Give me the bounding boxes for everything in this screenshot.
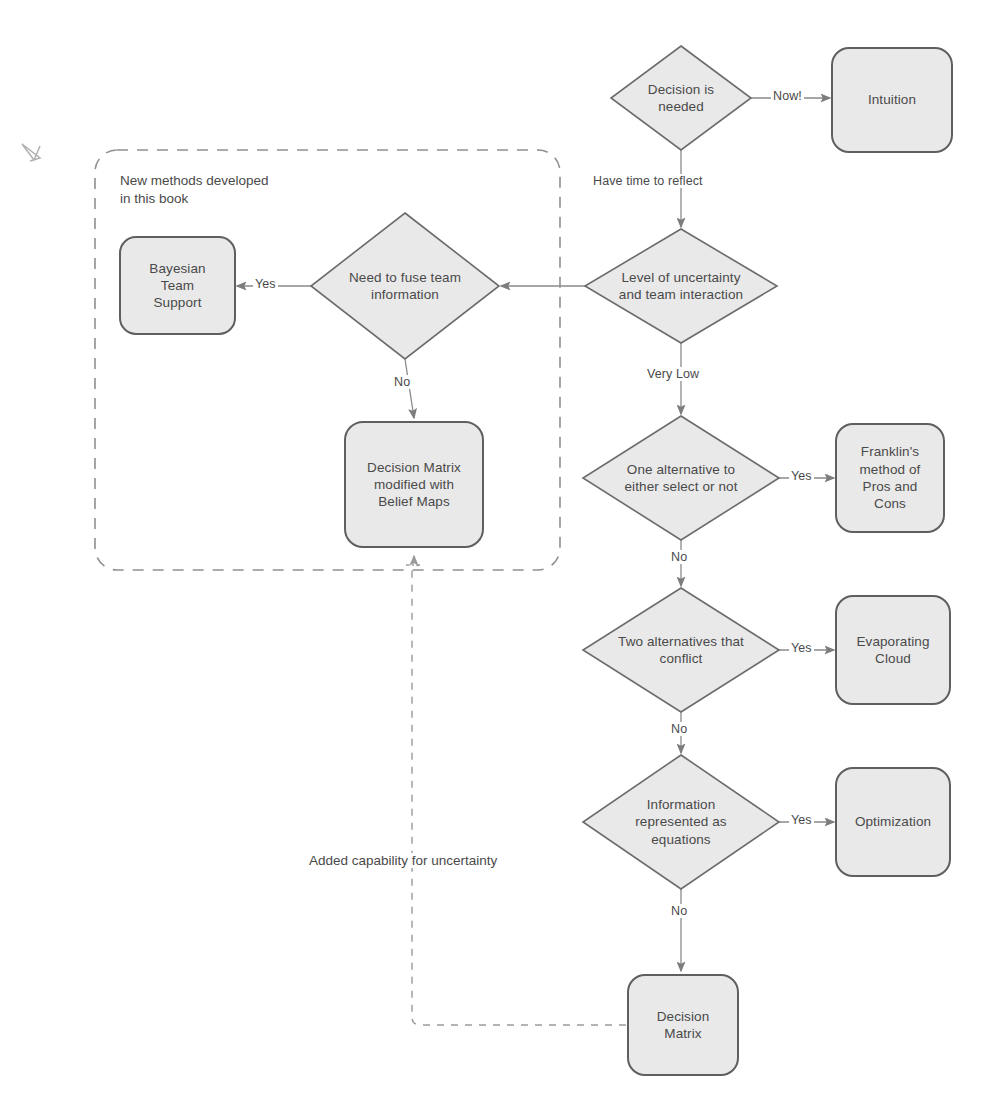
node-decision-is-needed[interactable] bbox=[611, 46, 751, 150]
edge-label-yes-fuse: Yes bbox=[253, 277, 278, 291]
node-decision-matrix-belief-maps[interactable] bbox=[345, 422, 483, 547]
edge-label-yes-two-alternatives: Yes bbox=[789, 641, 814, 655]
node-level-of-uncertainty[interactable] bbox=[585, 229, 777, 343]
edge-label-added-capability: Added capability for uncertainty bbox=[306, 853, 500, 868]
group-box-new-methods bbox=[95, 150, 560, 570]
edge-label-no-two-alternatives: No bbox=[669, 722, 689, 736]
edge-label-no-one-alternative: No bbox=[669, 550, 689, 564]
edge-label-have-time-to-reflect: Have time to reflect bbox=[591, 174, 705, 188]
scan-artifact-mark bbox=[22, 144, 40, 161]
edge-label-very-low: Very Low bbox=[645, 367, 701, 381]
edge-label-yes-one-alternative: Yes bbox=[789, 469, 814, 483]
group-box-caption: New methods developed in this book bbox=[120, 172, 370, 208]
node-evaporating-cloud[interactable] bbox=[836, 596, 950, 704]
edge-label-yes-information: Yes bbox=[789, 813, 814, 827]
node-need-to-fuse-team-information[interactable] bbox=[311, 213, 499, 359]
node-optimization[interactable] bbox=[836, 768, 950, 876]
edge-label-now: Now! bbox=[771, 89, 804, 103]
node-decision-matrix[interactable] bbox=[628, 975, 738, 1075]
node-bayesian-team-support[interactable] bbox=[120, 237, 235, 334]
node-two-alternatives-conflict[interactable] bbox=[583, 588, 779, 712]
flowchart-canvas: New methods developed in this book Decis… bbox=[0, 0, 1000, 1117]
node-one-alternative[interactable] bbox=[583, 416, 779, 540]
node-information-represented-as-equations[interactable] bbox=[583, 755, 779, 889]
flowchart-shapes-layer bbox=[0, 0, 1000, 1117]
node-intuition[interactable] bbox=[832, 48, 952, 152]
node-franklins-method[interactable] bbox=[836, 424, 944, 532]
edge-decision-matrix-to-belief-maps bbox=[406, 556, 626, 1025]
edge-label-no-fuse: No bbox=[392, 375, 412, 389]
edge-label-no-information: No bbox=[669, 904, 689, 918]
